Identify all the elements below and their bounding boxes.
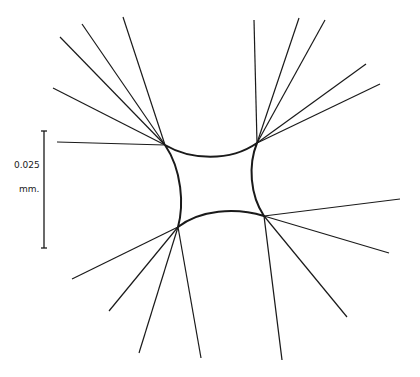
- filaments: [53, 17, 400, 360]
- filament-bottom-right-3: [264, 216, 347, 317]
- filament-top-right-1: [254, 20, 257, 143]
- filament-top-right-4: [257, 64, 366, 143]
- filament-bottom-left-4: [178, 227, 201, 358]
- filament-top-right-3: [257, 20, 325, 143]
- filament-top-left-3: [60, 37, 165, 145]
- scale-unit-label: mm.: [19, 184, 39, 194]
- filament-bottom-left-2: [109, 227, 178, 311]
- scale-bar: [41, 131, 47, 248]
- filament-top-left-5: [123, 17, 165, 145]
- filament-bottom-left-3: [139, 227, 178, 353]
- filament-top-right-5: [257, 84, 380, 143]
- filament-bottom-right-2: [264, 216, 389, 253]
- filament-bottom-right-1: [264, 199, 400, 216]
- cell-body-outline: [165, 143, 264, 227]
- scale-value-label: 0.025: [14, 160, 40, 170]
- filament-top-left-2: [53, 88, 165, 145]
- cell-diagram: [0, 0, 420, 377]
- filament-top-left-4: [82, 24, 165, 145]
- filament-top-left-1: [57, 142, 165, 145]
- filament-top-right-2: [257, 18, 299, 143]
- filament-bottom-left-1: [72, 227, 178, 279]
- filament-bottom-right-4: [264, 216, 282, 360]
